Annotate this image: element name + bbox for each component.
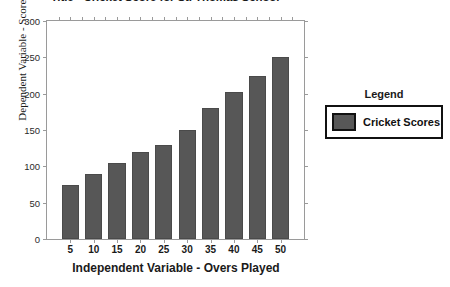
- y-tick-left: [43, 94, 47, 95]
- x-tick-bottom: [117, 239, 118, 243]
- bar: [108, 163, 125, 239]
- x-tick-label: 35: [205, 244, 216, 255]
- legend-swatch-cricket-scores: [332, 113, 356, 131]
- bar: [249, 76, 266, 240]
- x-tick-bottom: [281, 239, 282, 243]
- x-tick-top: [94, 17, 95, 21]
- chart-title: Title - Cricket Score for St. Thomas Sch…: [0, 0, 330, 3]
- x-tick-label: 5: [68, 244, 74, 255]
- y-tick-label: 100: [24, 161, 40, 172]
- x-tick-label: 50: [275, 244, 286, 255]
- y-tick-right: [304, 94, 308, 95]
- x-tick-label: 15: [112, 244, 123, 255]
- x-tick-top-minor: [105, 17, 106, 21]
- legend-box: Cricket Scores: [325, 105, 443, 139]
- x-tick-top: [164, 17, 165, 21]
- x-tick-top-minor: [152, 17, 153, 21]
- x-tick-label: 45: [252, 244, 263, 255]
- x-tick-top: [70, 17, 71, 21]
- legend: Legend Cricket Scores: [325, 88, 443, 139]
- x-tick-top-minor: [199, 17, 200, 21]
- bar: [85, 174, 102, 239]
- bar: [202, 108, 219, 239]
- x-tick-top: [117, 17, 118, 21]
- x-tick-top-minor: [292, 17, 293, 21]
- y-tick-left: [43, 21, 47, 22]
- bar: [155, 145, 172, 239]
- y-tick-right: [304, 21, 308, 22]
- x-tick-bottom: [257, 239, 258, 243]
- x-tick-top-minor: [222, 17, 223, 21]
- legend-title: Legend: [325, 88, 443, 100]
- x-tick-bottom: [234, 239, 235, 243]
- bar: [272, 57, 289, 239]
- x-tick-top: [140, 17, 141, 21]
- y-tick-left: [43, 239, 47, 240]
- x-tick-top-minor: [246, 17, 247, 21]
- x-tick-bottom: [70, 239, 71, 243]
- y-tick-label: 150: [24, 125, 40, 136]
- x-tick-label: 10: [88, 244, 99, 255]
- x-tick-top-minor: [129, 17, 130, 21]
- y-tick-left: [43, 203, 47, 204]
- y-tick-label: 200: [24, 88, 40, 99]
- x-tick-top-minor: [82, 17, 83, 21]
- y-tick-label: 50: [29, 197, 40, 208]
- y-tick-right: [304, 130, 308, 131]
- bar: [62, 185, 79, 240]
- x-tick-label: 25: [158, 244, 169, 255]
- bar: [225, 92, 242, 240]
- x-tick-top: [211, 17, 212, 21]
- bar: [179, 130, 196, 239]
- x-tick-bottom: [140, 239, 141, 243]
- x-tick-label: 20: [135, 244, 146, 255]
- x-tick-bottom: [164, 239, 165, 243]
- y-tick-right: [304, 239, 308, 240]
- y-tick-left: [43, 57, 47, 58]
- x-tick-bottom: [187, 239, 188, 243]
- y-tick-right: [304, 166, 308, 167]
- x-tick-label: 40: [228, 244, 239, 255]
- x-tick-top-minor: [176, 17, 177, 21]
- x-tick-label: 30: [182, 244, 193, 255]
- y-tick-left: [43, 130, 47, 131]
- x-tick-bottom: [94, 239, 95, 243]
- x-tick-top: [234, 17, 235, 21]
- y-tick-label: 300: [24, 16, 40, 27]
- y-tick-right: [304, 203, 308, 204]
- x-tick-top: [257, 17, 258, 21]
- plot-area: 050100150200250300 5101520253035404550: [46, 20, 305, 240]
- bar: [132, 152, 149, 239]
- x-tick-top: [281, 17, 282, 21]
- x-tick-top-minor: [269, 17, 270, 21]
- legend-label-cricket-scores: Cricket Scores: [363, 116, 440, 128]
- y-tick-left: [43, 166, 47, 167]
- y-tick-right: [304, 57, 308, 58]
- x-axis-title: Independent Variable - Overs Played: [36, 261, 316, 275]
- x-tick-top-minor: [59, 17, 60, 21]
- y-tick-label: 250: [24, 52, 40, 63]
- y-tick-label: 0: [35, 234, 40, 245]
- x-tick-bottom: [211, 239, 212, 243]
- x-tick-top: [187, 17, 188, 21]
